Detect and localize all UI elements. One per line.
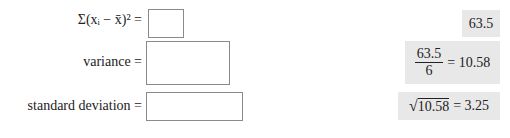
variance-label: variance =	[83, 54, 142, 70]
sqrt-expression: √ 10.58	[409, 98, 449, 114]
variance-numerator: 63.5	[415, 46, 444, 63]
sum-sq-dev-answer: 63.5	[462, 10, 500, 37]
variance-answer: 63.5 6 = 10.58	[405, 41, 500, 84]
variance-fraction: 63.5 6	[415, 46, 444, 79]
sum-sq-dev-label: Σ(xᵢ − x̄)² =	[78, 12, 142, 28]
sum-sq-dev-input[interactable]	[148, 9, 184, 38]
std-dev-text: standard deviation =	[28, 98, 142, 113]
sum-sq-dev-text: Σ(xᵢ − x̄)² =	[78, 12, 142, 27]
sum-sq-dev-answer-value: 63.5	[469, 16, 494, 32]
variance-input[interactable]	[146, 41, 230, 85]
variance-result: = 10.58	[447, 55, 490, 71]
sqrt-icon: √	[409, 98, 418, 114]
variance-text: variance =	[83, 54, 142, 69]
std-dev-input[interactable]	[146, 92, 243, 121]
sqrt-radicand: 10.58	[418, 98, 450, 114]
std-dev-answer: √ 10.58 = 3.25	[398, 92, 500, 120]
variance-denominator: 6	[426, 63, 433, 79]
std-dev-label: standard deviation =	[28, 98, 142, 114]
std-dev-result: = 3.25	[453, 98, 489, 114]
